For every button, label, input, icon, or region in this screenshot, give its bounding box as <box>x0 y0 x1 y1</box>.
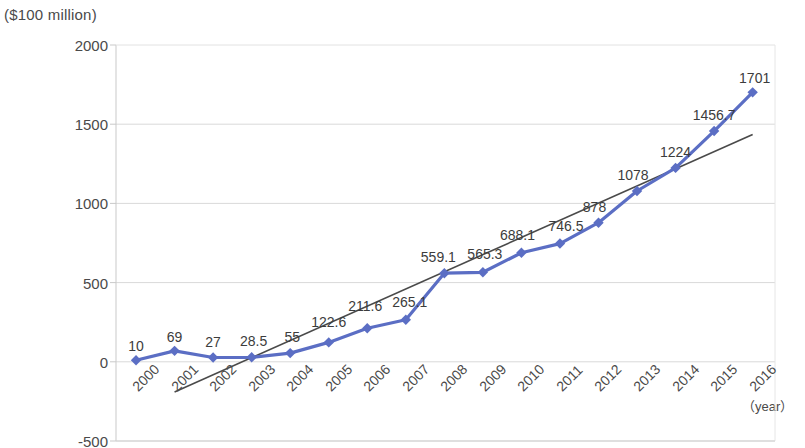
data-label-2003: 28.5 <box>240 333 267 349</box>
data-label-2012: 878 <box>583 199 606 215</box>
data-label-2015: 1456.7 <box>693 107 736 123</box>
data-label-2000: 10 <box>128 338 144 354</box>
data-label-2001: 69 <box>167 329 183 345</box>
data-label-2014: 1224 <box>660 144 691 160</box>
data-point-markers <box>131 87 758 365</box>
data-label-2010: 688.1 <box>500 227 535 243</box>
data-label-2009: 565.3 <box>467 246 502 262</box>
data-label-2013: 1078 <box>617 167 648 183</box>
data-label-2011: 746.5 <box>548 218 583 234</box>
data-label-2007: 265.1 <box>392 294 427 310</box>
data-label-2008: 559.1 <box>421 249 456 265</box>
y-axis-ticks <box>110 45 116 441</box>
data-label-2004: 55 <box>284 329 300 345</box>
data-label-2005: 122.6 <box>311 314 346 330</box>
line-chart: ($100 million) （year） 2000150010005000-5… <box>0 0 805 448</box>
data-series-line <box>136 92 753 360</box>
data-label-2002: 27 <box>205 334 221 350</box>
data-label-2016: 1701 <box>739 70 770 86</box>
data-label-2006: 211.6 <box>348 298 382 314</box>
